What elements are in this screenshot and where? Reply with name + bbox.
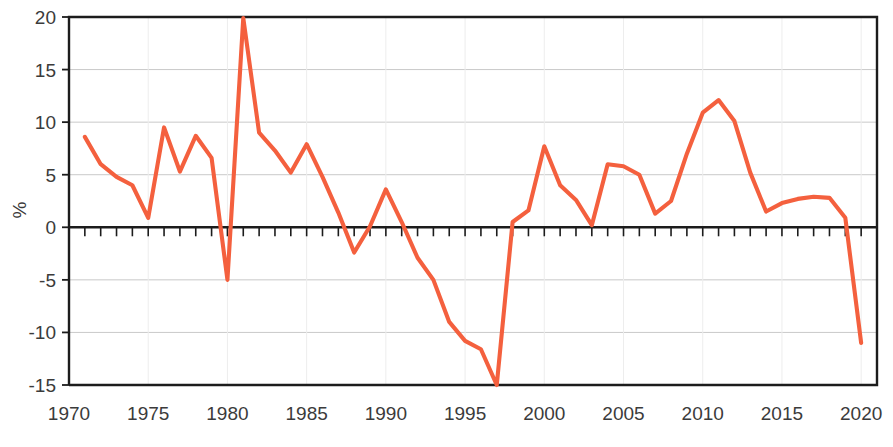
y-tick-label: -15 bbox=[29, 375, 56, 396]
x-tick-label: 1970 bbox=[48, 403, 90, 424]
x-tick-label: 2020 bbox=[840, 403, 882, 424]
x-tick-label: 1990 bbox=[365, 403, 407, 424]
y-axis-title: % bbox=[9, 201, 30, 218]
y-tick-label: 20 bbox=[35, 7, 56, 28]
y-tick-label: 10 bbox=[35, 112, 56, 133]
series-line-annual-change bbox=[85, 18, 861, 385]
x-tick-label: 2000 bbox=[523, 403, 565, 424]
line-chart: 20151050-5-10-15 19701975198019851990199… bbox=[0, 0, 893, 447]
y-tick-label: -5 bbox=[39, 270, 56, 291]
x-tick-label: 2005 bbox=[602, 403, 644, 424]
axes-group bbox=[69, 17, 877, 385]
x-tick-label: 1975 bbox=[127, 403, 169, 424]
y-tick-label: -10 bbox=[29, 322, 56, 343]
data-series-group bbox=[85, 18, 861, 385]
y-tick-label: 0 bbox=[45, 217, 56, 238]
x-tick-labels-group: 1970197519801985199019952000200520102015… bbox=[48, 403, 882, 424]
y-tick-labels-group: 20151050-5-10-15 bbox=[29, 7, 56, 396]
x-tick-label: 1980 bbox=[206, 403, 248, 424]
chart-container: 20151050-5-10-15 19701975198019851990199… bbox=[0, 0, 893, 447]
x-tick-label: 2015 bbox=[761, 403, 803, 424]
x-tick-marks-group bbox=[85, 227, 861, 236]
x-tick-label: 1985 bbox=[286, 403, 328, 424]
x-tick-label: 1995 bbox=[444, 403, 486, 424]
x-tick-label: 2010 bbox=[682, 403, 724, 424]
plot-frame bbox=[69, 17, 877, 385]
y-tick-label: 5 bbox=[45, 165, 56, 186]
gridlines-group bbox=[69, 17, 877, 385]
y-tick-label: 15 bbox=[35, 60, 56, 81]
